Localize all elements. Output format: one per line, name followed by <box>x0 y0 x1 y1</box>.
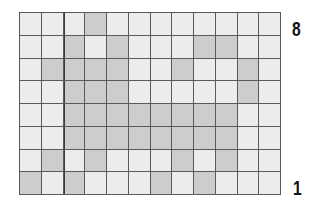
grid-cell <box>85 81 106 103</box>
grid-cell <box>20 127 41 149</box>
grid-cell <box>107 36 128 58</box>
shaded-grid <box>19 12 281 195</box>
grid-cell <box>238 127 259 149</box>
grid-cell <box>85 104 106 126</box>
grid-cell <box>194 81 215 103</box>
grid-cell <box>107 13 128 35</box>
grid-cell <box>151 104 172 126</box>
grid-cell <box>64 81 85 103</box>
grid-cell <box>42 13 63 35</box>
grid-cell <box>129 150 150 172</box>
grid-cell <box>20 36 41 58</box>
grid-cell <box>107 81 128 103</box>
grid-cell <box>259 172 280 194</box>
grid-cell <box>129 104 150 126</box>
grid-cell <box>194 59 215 81</box>
grid-cell <box>129 172 150 194</box>
grid-cell <box>259 104 280 126</box>
grid-cell <box>129 127 150 149</box>
grid-cell <box>85 172 106 194</box>
grid-cell <box>129 81 150 103</box>
grid-cell <box>42 150 63 172</box>
grid-cell <box>216 172 237 194</box>
grid-cell <box>172 13 193 35</box>
grid-cell <box>172 104 193 126</box>
grid-cell <box>172 150 193 172</box>
grid-cell <box>216 104 237 126</box>
grid-cell <box>216 81 237 103</box>
grid-cell <box>64 13 85 35</box>
grid-cell <box>259 13 280 35</box>
grid-cell <box>238 81 259 103</box>
grid-cell <box>20 104 41 126</box>
grid-cell <box>172 59 193 81</box>
grid-cell <box>194 36 215 58</box>
grid-cell <box>259 127 280 149</box>
grid-cell <box>85 127 106 149</box>
grid-cell <box>20 13 41 35</box>
grid-cell <box>64 172 85 194</box>
grid-cell <box>64 127 85 149</box>
grid-cell <box>85 36 106 58</box>
grid-cell <box>42 59 63 81</box>
grid-cell <box>238 36 259 58</box>
grid-cell <box>172 36 193 58</box>
grid-cell <box>172 172 193 194</box>
grid-cell <box>42 81 63 103</box>
grid-cell <box>107 127 128 149</box>
grid-cell <box>151 36 172 58</box>
grid-cell <box>64 36 85 58</box>
grid-cell <box>42 127 63 149</box>
grid-cell <box>151 150 172 172</box>
grid-cell <box>216 127 237 149</box>
grid-cell <box>259 81 280 103</box>
grid-cell <box>107 172 128 194</box>
grid-cell <box>172 127 193 149</box>
grid-cell <box>20 172 41 194</box>
grid-cell <box>238 104 259 126</box>
grid-cell <box>20 150 41 172</box>
grid-cell <box>151 59 172 81</box>
grid-cell <box>259 150 280 172</box>
grid-cell <box>129 59 150 81</box>
grid-cell <box>259 36 280 58</box>
grid-cell <box>107 59 128 81</box>
grid-cell <box>129 36 150 58</box>
grid-cell <box>20 81 41 103</box>
grid-cell <box>238 59 259 81</box>
grid-cell <box>151 172 172 194</box>
grid-cell <box>64 59 85 81</box>
grid-cell <box>107 104 128 126</box>
grid-cell <box>20 59 41 81</box>
grid-cell <box>194 127 215 149</box>
grid-cell <box>216 13 237 35</box>
grid-cell <box>194 150 215 172</box>
grid-cell <box>216 59 237 81</box>
grid-cell <box>194 13 215 35</box>
grid-cell <box>42 104 63 126</box>
grid-cell <box>42 36 63 58</box>
grid-cell <box>151 81 172 103</box>
grid-cell <box>216 36 237 58</box>
grid-cell <box>172 81 193 103</box>
grid-cell <box>238 13 259 35</box>
grid-cell <box>129 13 150 35</box>
grid-cell <box>85 59 106 81</box>
grid-cell <box>216 150 237 172</box>
grid-cell <box>151 127 172 149</box>
grid-cell <box>64 150 85 172</box>
grid-cell <box>238 150 259 172</box>
grid-cell <box>107 150 128 172</box>
grid-cell <box>238 172 259 194</box>
row-label-bottom: 1 <box>293 178 302 198</box>
row-label-top: 8 <box>292 19 301 39</box>
grid-cell <box>85 150 106 172</box>
grid-cell <box>194 104 215 126</box>
grid-cell <box>259 59 280 81</box>
grid-cell <box>151 13 172 35</box>
grid-cell <box>85 13 106 35</box>
grid-cell <box>42 172 63 194</box>
grid-cell <box>194 172 215 194</box>
grid-cell <box>64 104 85 126</box>
